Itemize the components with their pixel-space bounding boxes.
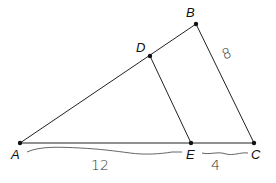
label-d: D — [136, 40, 145, 55]
segment-de — [150, 56, 191, 143]
brace-ae — [27, 147, 182, 154]
segment-ab — [20, 24, 196, 143]
point-d — [148, 54, 152, 58]
measure-bc: 8 — [220, 44, 234, 62]
brace-ec — [202, 153, 248, 155]
point-b — [194, 22, 198, 26]
triangle-diagram: A B C D E 12 4 8 — [0, 0, 276, 183]
point-c — [252, 141, 256, 145]
label-e: E — [186, 147, 195, 162]
measure-ec: 4 — [211, 157, 220, 173]
point-e — [189, 141, 193, 145]
label-c: C — [251, 147, 261, 162]
segment-bc — [196, 24, 254, 143]
point-a — [18, 141, 22, 145]
label-b: B — [186, 5, 195, 20]
label-a: A — [10, 147, 20, 162]
measure-ae: 12 — [91, 157, 109, 173]
